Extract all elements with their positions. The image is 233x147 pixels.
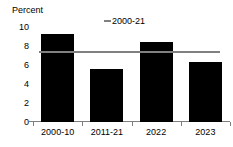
x-axis-tick-mark xyxy=(82,122,83,126)
x-axis-label-2011-21: 2011-21 xyxy=(91,127,123,137)
bar-chart: Percent 2000-21 02468102000-102011-21202… xyxy=(0,0,233,147)
y-axis-title: Percent xyxy=(12,5,43,16)
bar-2022 xyxy=(140,42,173,122)
reference-line-2000-21 xyxy=(39,51,220,53)
legend-label-2000-21: 2000-21 xyxy=(112,16,145,26)
y-axis-tick-label: 2 xyxy=(24,99,29,108)
bar-2011-21 xyxy=(90,69,123,122)
y-axis-tick-label: 8 xyxy=(24,42,29,51)
x-axis-tick-mark xyxy=(132,122,133,126)
chart-legend: 2000-21 xyxy=(104,16,145,26)
plot-area: 02468102000-102011-2120222023 xyxy=(33,27,230,122)
y-axis-tick-label: 10 xyxy=(19,23,29,32)
x-axis-tick-mark xyxy=(181,122,182,126)
y-axis-tick-label: 4 xyxy=(24,80,29,89)
legend-line-marker-icon xyxy=(104,20,111,22)
x-axis-tick-mark xyxy=(230,122,231,126)
bar-2000-10 xyxy=(41,34,74,122)
y-axis-tick-label: 6 xyxy=(24,61,29,70)
x-axis-label-2000-10: 2000-10 xyxy=(41,127,74,137)
x-axis-tick-mark xyxy=(33,122,34,126)
x-axis-label-2023: 2023 xyxy=(195,127,215,137)
x-axis-label-2022: 2022 xyxy=(146,127,166,137)
bar-2023 xyxy=(189,62,222,122)
y-axis-tick-label: 0 xyxy=(24,118,29,127)
